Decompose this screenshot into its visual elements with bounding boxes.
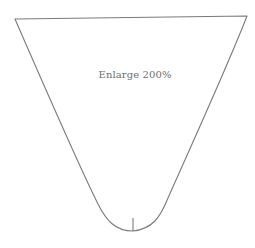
pattern-piece-outline bbox=[15, 16, 247, 231]
enlarge-instruction-label: Enlarge 200% bbox=[0, 69, 255, 80]
pattern-diagram bbox=[0, 0, 255, 248]
